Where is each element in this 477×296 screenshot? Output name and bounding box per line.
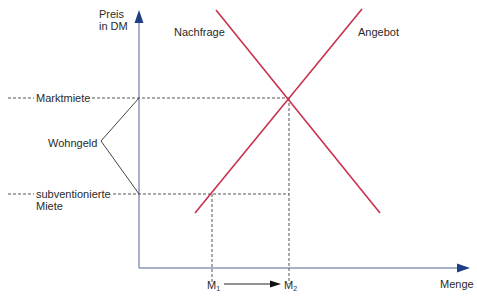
y-axis-arrow-icon: [135, 10, 144, 23]
supply-curve: [195, 9, 362, 213]
supply-label: Angebot: [358, 26, 399, 38]
subsidized-rent-label-line1: subventionierte: [36, 188, 111, 200]
x-axis-label: Menge: [440, 278, 474, 290]
wohngeld-bracket: [101, 98, 139, 194]
shift-arrow-icon: [270, 281, 281, 288]
m2-label: M2: [284, 279, 297, 295]
wohngeld-label: Wohngeld: [48, 137, 97, 149]
demand-label: Nachfrage: [174, 26, 225, 38]
market-rent-label: Marktmiete: [36, 92, 90, 104]
demand-curve: [216, 10, 380, 213]
y-axis-label-line1: Preis: [99, 8, 124, 20]
subsidized-rent-label-line2: Miete: [36, 200, 63, 212]
m1-label: M1: [207, 279, 220, 295]
y-axis-label-line2: in DM: [99, 20, 128, 32]
x-axis-arrow-icon: [457, 264, 470, 273]
